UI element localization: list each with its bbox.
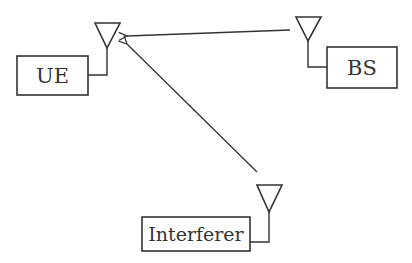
bs-label: BS — [327, 47, 397, 88]
bs-antenna-icon — [296, 17, 321, 41]
bs-to-ue-arrow — [127, 30, 290, 36]
interferer-to-ue-arrow — [127, 44, 257, 172]
ue-label: UE — [17, 56, 88, 95]
interferer-antenna-icon — [257, 185, 282, 212]
ue-antenna-icon — [95, 23, 120, 48]
diagram-canvas: UE BS Interferer — [0, 0, 412, 263]
bs-antenna-feed — [308, 41, 327, 67]
ue-antenna-feed — [88, 48, 107, 75]
interferer-antenna-feed — [250, 212, 269, 242]
interferer-label: Interferer — [142, 217, 250, 251]
